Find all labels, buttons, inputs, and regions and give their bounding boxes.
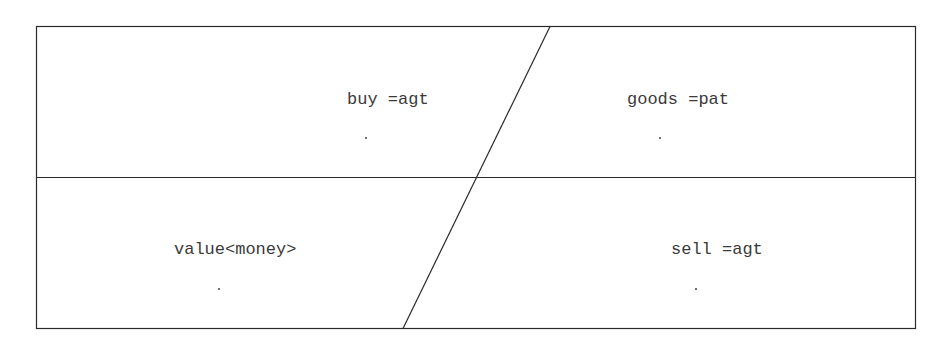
cell-label-buy: buy =agt xyxy=(347,90,429,110)
cell-marker-dot xyxy=(659,137,661,139)
cell-marker-dot xyxy=(695,288,697,290)
cell-marker-dot xyxy=(218,288,220,290)
cell-label-value: value<money> xyxy=(174,240,296,260)
cell-label-goods: goods =pat xyxy=(627,90,729,110)
diagram-frame xyxy=(0,0,940,341)
cell-marker-dot xyxy=(365,137,367,139)
cell-label-sell: sell =agt xyxy=(671,240,763,260)
